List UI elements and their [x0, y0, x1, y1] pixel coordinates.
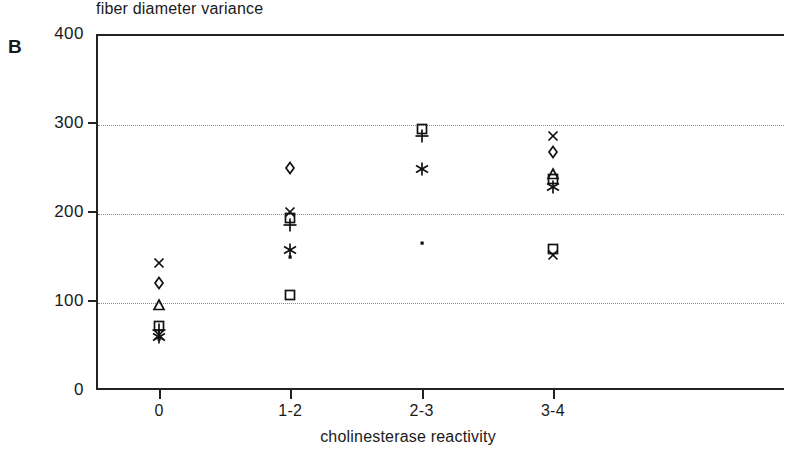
- data-point-cross-25: [545, 247, 561, 263]
- figure-panel-b: B fiber diameter variance 01002003004000…: [0, 0, 796, 458]
- chart-title: fiber diameter variance: [96, 0, 263, 18]
- data-point-cross-19: [545, 128, 561, 144]
- data-point-dot-7: [151, 331, 167, 347]
- ytick-label-0: 0: [24, 380, 84, 400]
- ytick-mark-100: [88, 300, 97, 302]
- data-point-dot-18: [414, 235, 430, 251]
- xtick-mark-0: [159, 390, 161, 399]
- xaxis-title: cholinesterase reactivity: [0, 428, 796, 446]
- data-point-triangle-2: [151, 297, 167, 313]
- data-point-diamond-8: [282, 160, 298, 176]
- data-point-diamond-20: [545, 144, 561, 160]
- ytick-label-200: 200: [24, 202, 84, 222]
- xtick-mark-2-3: [422, 390, 424, 399]
- xtick-label-2-3: 2-3: [382, 402, 462, 420]
- data-point-diamond-1: [151, 275, 167, 291]
- ytick-label-300: 300: [24, 113, 84, 133]
- xtick-mark-1-2: [290, 390, 292, 399]
- xtick-label-3-4: 3-4: [513, 402, 593, 420]
- data-point-plus-11: [282, 217, 298, 233]
- data-point-dot-13: [282, 249, 298, 265]
- data-point-asterisk-17: [414, 161, 430, 177]
- data-point-square-14: [282, 287, 298, 303]
- data-point-cross-0: [151, 255, 167, 271]
- gridline-100: [98, 303, 784, 304]
- gridline-200: [98, 214, 784, 215]
- ytick-label-100: 100: [24, 291, 84, 311]
- gridline-300: [98, 125, 784, 126]
- xtick-label-1-2: 1-2: [250, 402, 330, 420]
- ytick-label-400: 400: [24, 24, 84, 44]
- panel-label: B: [8, 36, 22, 58]
- xtick-label-0: 0: [119, 402, 199, 420]
- xtick-mark-3-4: [553, 390, 555, 399]
- plot-area: [96, 34, 784, 390]
- ytick-mark-200: [88, 211, 97, 213]
- ytick-mark-300: [88, 122, 97, 124]
- data-point-plus-16: [414, 128, 430, 144]
- data-point-asterisk-23: [545, 179, 561, 195]
